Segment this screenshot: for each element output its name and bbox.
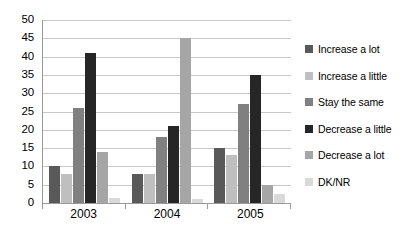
legend-label: Decrease a little — [318, 123, 392, 135]
y-tick-label: 45 — [22, 33, 34, 45]
legend-item[interactable]: DK/NR — [305, 169, 410, 196]
bar[interactable] — [144, 174, 155, 203]
bar[interactable] — [262, 185, 273, 203]
legend-item[interactable]: Increase a lot — [305, 36, 410, 63]
y-tick-label: 30 — [22, 87, 34, 99]
legend-swatch-icon — [305, 178, 313, 186]
y-tick-label: 40 — [22, 51, 34, 63]
legend-item[interactable]: Increase a little — [305, 63, 410, 90]
bar[interactable] — [168, 126, 179, 203]
bar[interactable] — [132, 174, 143, 203]
x-tick-label: 2004 — [125, 207, 208, 221]
legend-label: Increase a lot — [318, 43, 380, 55]
bar[interactable] — [61, 174, 72, 203]
legend-swatch-icon — [305, 125, 313, 133]
plot-wrapper: 05101520253035404550 200320042005 — [0, 0, 300, 241]
x-axis-tick — [290, 204, 291, 209]
legend-swatch-icon — [305, 45, 313, 53]
x-tick-label: 2003 — [42, 207, 125, 221]
bar[interactable] — [250, 75, 261, 203]
bar[interactable] — [109, 198, 120, 203]
y-tick-label: 10 — [22, 161, 34, 173]
bar[interactable] — [214, 148, 225, 203]
bar-groups — [43, 20, 291, 203]
bar[interactable] — [85, 53, 96, 203]
x-tick-label: 2005 — [209, 207, 292, 221]
y-tick-label: 35 — [22, 69, 34, 81]
x-axis-tick — [207, 204, 208, 209]
y-tick-label: 50 — [22, 14, 34, 26]
legend-label: Stay the same — [318, 96, 384, 108]
bar[interactable] — [180, 38, 191, 203]
legend-swatch-icon — [305, 151, 313, 159]
legend-item[interactable]: Stay the same — [305, 89, 410, 116]
bar-chart: 05101520253035404550 200320042005 Increa… — [0, 0, 410, 241]
x-axis-tick — [42, 204, 43, 209]
bar-group-2003 — [43, 20, 126, 203]
legend-swatch-icon — [305, 72, 313, 80]
bar[interactable] — [238, 104, 249, 203]
bar[interactable] — [192, 199, 203, 203]
legend-item[interactable]: Decrease a lot — [305, 142, 410, 169]
bar[interactable] — [73, 108, 84, 203]
plot-area — [42, 20, 291, 204]
y-tick-label: 5 — [28, 179, 34, 191]
bar[interactable] — [97, 152, 108, 203]
legend: Increase a lotIncrease a littleStay the … — [305, 36, 410, 195]
y-tick-label: 20 — [22, 124, 34, 136]
bar[interactable] — [156, 137, 167, 203]
y-tick-label: 0 — [28, 197, 34, 209]
legend-label: Decrease a lot — [318, 149, 384, 161]
bar[interactable] — [274, 194, 285, 203]
bar-group-2004 — [126, 20, 209, 203]
x-axis: 200320042005 — [42, 207, 292, 221]
x-axis-tick — [125, 204, 126, 209]
legend-label: Increase a little — [318, 70, 387, 82]
bar-group-2005 — [208, 20, 291, 203]
bar[interactable] — [49, 166, 60, 203]
y-axis: 05101520253035404550 — [0, 20, 38, 203]
legend-item[interactable]: Decrease a little — [305, 116, 410, 143]
y-tick-label: 15 — [22, 142, 34, 154]
bar[interactable] — [226, 155, 237, 203]
legend-label: DK/NR — [318, 176, 350, 188]
y-tick-label: 25 — [22, 106, 34, 118]
legend-swatch-icon — [305, 98, 313, 106]
